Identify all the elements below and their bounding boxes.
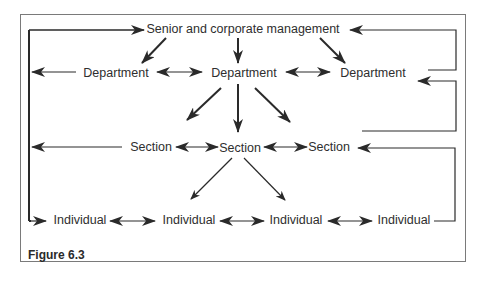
dept-to-section-right bbox=[255, 88, 290, 122]
node-individual-1: Individual bbox=[54, 213, 107, 227]
node-department-centre: Department bbox=[211, 66, 276, 80]
node-section-centre: Section bbox=[219, 141, 261, 155]
senior-to-dept-right bbox=[320, 38, 345, 63]
right-feedback-bottom bbox=[358, 148, 455, 221]
node-department-left: Department bbox=[83, 66, 148, 80]
node-section-left: Section bbox=[130, 140, 172, 154]
right-feedback-middle bbox=[362, 81, 456, 131]
node-individual-3: Individual bbox=[270, 213, 323, 227]
node-individual-2: Individual bbox=[163, 213, 216, 227]
senior-to-dept-left bbox=[142, 38, 166, 63]
node-section-right: Section bbox=[308, 140, 350, 154]
dept-to-section-left bbox=[187, 88, 221, 120]
section-to-individual-3 bbox=[244, 158, 285, 200]
section-to-individual-2 bbox=[191, 158, 232, 199]
figure-caption: Figure 6.3 bbox=[28, 248, 85, 262]
node-department-right: Department bbox=[340, 66, 405, 80]
node-individual-4: Individual bbox=[378, 213, 431, 227]
right-feedback-top bbox=[350, 30, 456, 70]
node-senior-management: Senior and corporate management bbox=[146, 22, 339, 36]
